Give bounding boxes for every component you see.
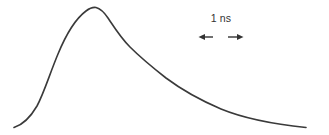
- decay-curve-plot: [0, 0, 329, 135]
- plot-background: [0, 0, 329, 135]
- figure-container: 1 ns: [0, 0, 329, 135]
- scale-bar-label: 1 ns: [196, 12, 246, 25]
